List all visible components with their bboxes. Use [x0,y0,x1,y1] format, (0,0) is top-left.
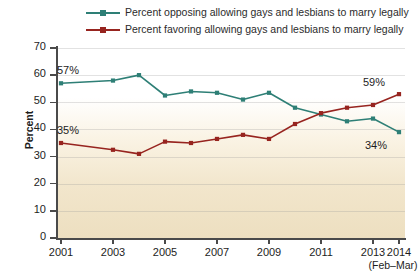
data-point-marker [293,106,297,110]
data-point-marker [319,111,323,115]
series-layer [0,0,420,275]
data-point-marker [345,106,349,110]
point-annotation-opposing-end: 34% [365,139,387,151]
point-annotation-opposing-start: 57% [57,64,79,76]
chart-container: Percent opposing allowing gays and lesbi… [0,0,420,275]
data-point-marker [215,137,219,141]
data-point-marker [189,141,193,145]
data-point-marker [371,103,375,107]
data-point-marker [189,89,193,93]
data-point-marker [397,92,401,96]
data-point-marker [345,119,349,123]
data-point-marker [59,141,63,145]
data-point-marker [163,140,167,144]
data-point-marker [59,81,63,85]
data-point-marker [371,116,375,120]
data-point-marker [215,91,219,95]
series-line-favoring [61,94,399,154]
data-point-marker [241,97,245,101]
data-point-marker [397,130,401,134]
data-point-marker [111,148,115,152]
series-line-opposing [61,75,399,132]
data-point-marker [267,91,271,95]
data-point-marker [137,73,141,77]
data-point-marker [293,122,297,126]
point-annotation-favoring-end: 59% [363,76,385,88]
data-point-marker [137,152,141,156]
data-point-marker [111,78,115,82]
point-annotation-favoring-start: 35% [57,124,79,136]
data-point-marker [241,133,245,137]
data-point-marker [267,137,271,141]
data-point-marker [163,93,167,97]
